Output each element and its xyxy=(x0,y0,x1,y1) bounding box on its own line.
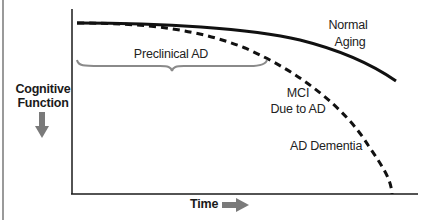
mci-label-line1: MCI xyxy=(287,86,309,100)
y-axis-label-line2: Function xyxy=(17,96,68,110)
down-arrow-icon xyxy=(35,112,49,138)
ad-dementia-label: AD Dementia xyxy=(290,139,362,153)
x-axis-label: Time xyxy=(190,197,218,211)
preclinical-ad-label: Preclinical AD xyxy=(134,47,208,61)
normal-aging-label-line1: Normal xyxy=(328,18,367,32)
mci-label-line2: Due to AD xyxy=(270,102,325,116)
normal-aging-label-line2: Aging xyxy=(335,35,366,49)
right-arrow-icon xyxy=(222,198,249,212)
preclinical-brace xyxy=(77,60,267,71)
diagram-canvas xyxy=(0,0,436,220)
y-axis-label-line1: Cognitive xyxy=(15,82,70,96)
